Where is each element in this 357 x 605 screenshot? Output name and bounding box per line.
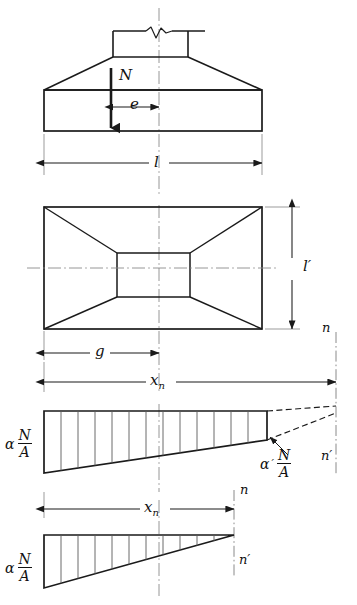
pressure-ordinate-lines-upper <box>61 411 248 471</box>
width-dimension-label-l: l <box>154 155 159 170</box>
pedestal-dimension-label-g: g <box>95 344 105 359</box>
pressure-diagram-triangle <box>44 492 234 588</box>
plan-hip-line-top-left <box>44 207 117 253</box>
section-label-n-prime-lower-bottom: n′ <box>239 553 250 566</box>
height-dimension-label-l-prime: l′ <box>303 259 311 274</box>
haunch-right-slope <box>188 57 262 90</box>
plan-view <box>27 207 300 360</box>
projection-dashed-lower <box>267 413 336 440</box>
plan-hip-line-bottom-left <box>44 297 117 329</box>
pressure-triangle-outline <box>44 535 234 588</box>
section-label-n-prime-upper-bottom: n′ <box>321 449 332 462</box>
pressure-trapezoid-outline <box>44 411 267 473</box>
left-ordinate-label-alpha-N-over-A-lower: α N A <box>5 552 33 583</box>
span-dimension-label-xn-lower: xn <box>144 500 159 518</box>
plan-hip-line-top-right <box>190 207 262 253</box>
base-slab-outline <box>44 90 262 131</box>
engineering-figure <box>0 0 357 605</box>
plan-hip-line-bottom-right <box>190 297 262 329</box>
span-dimension-label-xn-upper: xn <box>150 373 165 391</box>
elevation-view <box>44 27 262 175</box>
load-label-N: N <box>119 68 132 83</box>
haunch-left-slope <box>44 57 113 90</box>
eccentricity-label-e: e <box>130 97 139 112</box>
left-ordinate-label-alpha-N-over-A-upper: α N A <box>5 428 33 459</box>
section-label-n-upper-top: n <box>322 321 330 334</box>
projection-dashed-upper <box>267 406 336 411</box>
plan-inner-rectangle <box>117 253 190 297</box>
section-label-n-lower-top: n <box>240 483 248 496</box>
right-ordinate-label-alpha-prime-N-over-A: α′ N A <box>260 448 292 479</box>
